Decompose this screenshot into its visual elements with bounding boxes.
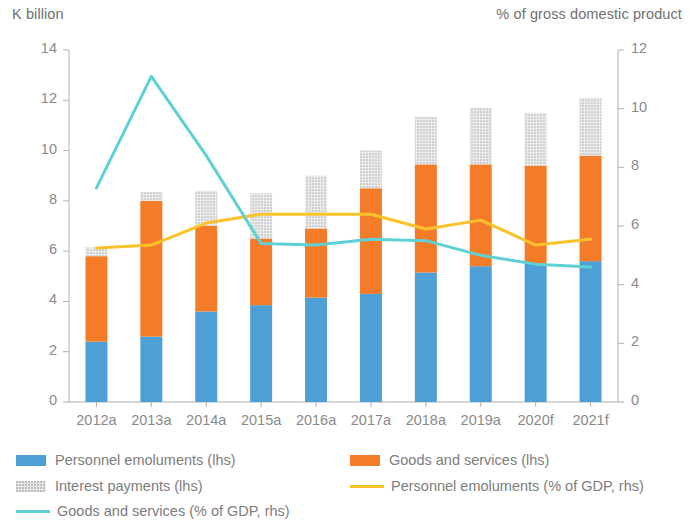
bar-segment — [195, 311, 217, 402]
bar-segment — [525, 264, 547, 402]
legend-swatch-dotted-icon — [16, 481, 46, 492]
legend-item[interactable]: Goods and services (% of GDP, rhs) — [16, 503, 290, 519]
bar-segment — [525, 113, 547, 166]
left-tick-label: 8 — [13, 191, 57, 207]
left-tick-label: 10 — [13, 141, 57, 157]
x-category-label: 2017a — [341, 412, 401, 428]
left-tick-label: 12 — [13, 90, 57, 106]
x-category-label: 2013a — [121, 412, 181, 428]
legend-label: Goods and services (lhs) — [389, 452, 549, 468]
chart-container: K billion % of gross domestic product 02… — [0, 0, 690, 525]
legend-item[interactable]: Personnel emoluments (lhs) — [16, 452, 236, 468]
legend-label: Personnel emoluments (% of GDP, rhs) — [391, 478, 644, 494]
bar-segment — [140, 337, 162, 402]
legend-label: Interest payments (lhs) — [55, 478, 202, 494]
bar-segment — [250, 239, 272, 306]
right-tick-label: 6 — [631, 216, 675, 232]
right-tick-label: 0 — [631, 392, 675, 408]
x-category-label: 2020f — [506, 412, 566, 428]
legend-item[interactable]: Interest payments (lhs) — [16, 478, 202, 494]
bar-segment — [415, 117, 437, 165]
legend-label: Goods and services (% of GDP, rhs) — [57, 503, 290, 519]
bar-segment — [470, 108, 492, 165]
bar-segment — [525, 166, 547, 264]
bar-segment — [580, 261, 602, 402]
right-tick-label: 8 — [631, 157, 675, 173]
bar-segment — [85, 342, 107, 402]
plot-area — [0, 0, 690, 440]
left-tick-label: 4 — [13, 291, 57, 307]
bar-segment — [470, 164, 492, 266]
bar-segment — [195, 226, 217, 311]
bar-segment — [360, 294, 382, 402]
legend-swatch-bar-icon — [350, 455, 380, 466]
x-category-label: 2021f — [561, 412, 621, 428]
right-tick-label: 4 — [631, 275, 675, 291]
bar-segment — [305, 176, 327, 229]
bar-segment — [250, 305, 272, 402]
right-tick-label: 2 — [631, 333, 675, 349]
left-tick-label: 14 — [13, 40, 57, 56]
bar-segment — [470, 266, 492, 402]
x-category-label: 2016a — [286, 412, 346, 428]
left-tick-label: 0 — [13, 392, 57, 408]
legend-swatch-bar-icon — [16, 455, 46, 466]
right-tick-label: 12 — [631, 40, 675, 56]
x-category-label: 2015a — [231, 412, 291, 428]
bar-segment — [140, 192, 162, 201]
left-tick-label: 2 — [13, 342, 57, 358]
x-category-label: 2018a — [396, 412, 456, 428]
right-tick-label: 10 — [631, 99, 675, 115]
bar-segment — [580, 156, 602, 262]
legend-label: Personnel emoluments (lhs) — [55, 452, 236, 468]
legend-item[interactable]: Personnel emoluments (% of GDP, rhs) — [350, 478, 644, 494]
bar-segment — [580, 98, 602, 156]
bar-segment — [140, 201, 162, 337]
x-category-label: 2014a — [176, 412, 236, 428]
x-category-label: 2012a — [66, 412, 126, 428]
bar-segment — [415, 273, 437, 402]
x-category-label: 2019a — [451, 412, 511, 428]
bar-segment — [85, 256, 107, 341]
legend-swatch-line-icon — [16, 510, 50, 513]
bar-segment — [305, 298, 327, 402]
bar-segment — [415, 164, 437, 272]
legend-item[interactable]: Goods and services (lhs) — [350, 452, 549, 468]
left-tick-label: 6 — [13, 241, 57, 257]
bar-segment — [360, 151, 382, 189]
bar-segment — [305, 229, 327, 298]
legend-swatch-line-icon — [350, 485, 384, 488]
